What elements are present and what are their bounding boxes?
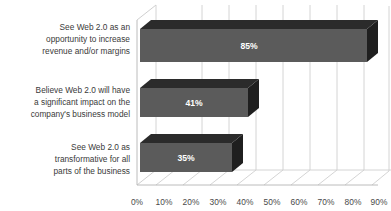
x-tick-label-7: 70% (318, 197, 335, 207)
bar-series-item-1[interactable]: 41% (140, 79, 259, 117)
gridline-4 (264, 170, 283, 185)
category-label-1-line-2: company's business model (31, 109, 131, 119)
bar-2-value-label: 35% (177, 153, 195, 163)
x-tick-label-3: 30% (210, 197, 227, 207)
grid-depth-line-origin-bottom (137, 170, 156, 185)
category-label-2-line-0: See Web 2.0 as (71, 142, 130, 152)
gridline-6 (318, 170, 337, 185)
x-tick-label-5: 50% (264, 197, 281, 207)
x-tick-label-9: 90% (371, 197, 388, 207)
x-tick-label-1: 10% (156, 197, 173, 207)
x-tick-label-4: 40% (237, 197, 254, 207)
category-label-2: See Web 2.0 as transformative for all pa… (53, 142, 130, 176)
bar-chart-3d: See Web 2.0 as an opportunity to increas… (0, 0, 391, 211)
category-label-0: See Web 2.0 as an opportunity to increas… (42, 22, 130, 56)
category-label-1: Believe Web 2.0 will have a significant … (31, 85, 131, 119)
category-labels: See Web 2.0 as an opportunity to increas… (31, 22, 131, 176)
x-axis-tick-labels: 0% 10% 20% 30% 40% 50% 60% 70% 80% 90% (131, 197, 388, 207)
category-label-2-line-2: parts of the business (53, 166, 130, 176)
grid-depth-line-origin (137, 5, 156, 20)
category-label-0-line-2: revenue and/or margins (42, 46, 130, 56)
gridline-5 (291, 170, 310, 185)
x-tick-label-6: 60% (291, 197, 308, 207)
category-label-2-line-1: transformative for all (55, 154, 130, 164)
bar-series-item-2[interactable]: 35% (140, 134, 243, 172)
chart-container: See Web 2.0 as an opportunity to increas… (0, 0, 391, 211)
category-label-0-line-1: opportunity to increase (46, 34, 130, 44)
category-label-0-line-0: See Web 2.0 as an (60, 22, 131, 32)
gridline-9 (156, 170, 175, 185)
gridline-7 (345, 170, 364, 185)
gridline-1 (183, 170, 202, 185)
gridline-8 (372, 171, 389, 185)
bar-1-top-face (140, 79, 259, 88)
bar-0-top-face (140, 20, 378, 29)
x-tick-label-0: 0% (131, 197, 144, 207)
gridline-3 (237, 170, 256, 185)
x-tick-label-8: 80% (345, 197, 362, 207)
bar-series-item-0[interactable]: 85% (140, 20, 378, 62)
category-label-1-line-1: a significant impact on the (34, 97, 130, 107)
gridline-2 (210, 170, 229, 185)
category-label-1-line-0: Believe Web 2.0 will have (36, 85, 131, 95)
bar-1-value-label: 41% (185, 98, 203, 108)
bar-2-top-face (140, 134, 243, 143)
x-tick-label-2: 20% (183, 197, 200, 207)
bar-0-value-label: 85% (240, 41, 258, 51)
